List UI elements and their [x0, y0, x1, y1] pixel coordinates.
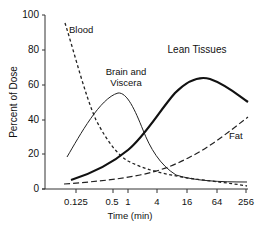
x-tick-1: 1 — [125, 196, 130, 207]
chart: 0 20 40 60 80 100 0.125 0.5 1 4 16 64 25… — [0, 0, 261, 228]
label-blood: Blood — [69, 24, 93, 35]
label-brain-line2: Viscera — [110, 77, 142, 88]
label-brain-line1: Brain and — [106, 66, 147, 77]
x-tick-4: 4 — [154, 196, 159, 207]
x-tick-0.125: 0.125 — [64, 196, 88, 207]
series-lean-tissues — [71, 78, 248, 180]
axes — [42, 15, 248, 193]
y-axis-title: Percent of Dose — [8, 66, 19, 138]
y-tick-20: 20 — [28, 148, 40, 159]
label-lean-tissues: Lean Tissues — [168, 44, 227, 55]
y-tick-0: 0 — [33, 183, 39, 194]
x-tick-256: 256 — [238, 196, 254, 207]
y-tick-80: 80 — [28, 44, 40, 55]
y-tick-100: 100 — [22, 9, 39, 20]
y-tick-60: 60 — [28, 79, 40, 90]
y-tick-labels: 0 20 40 60 80 100 — [22, 9, 39, 194]
x-tick-16: 16 — [182, 196, 193, 207]
series-fat — [64, 117, 248, 184]
x-tick-64: 64 — [212, 196, 223, 207]
x-tick-labels: 0.125 0.5 1 4 16 64 256 — [64, 196, 254, 207]
y-tick-40: 40 — [28, 114, 40, 125]
label-fat: Fat — [229, 130, 243, 141]
series-brain-viscera — [67, 93, 247, 182]
x-tick-0.5: 0.5 — [105, 196, 118, 207]
x-axis-title: Time (min) — [107, 210, 152, 221]
